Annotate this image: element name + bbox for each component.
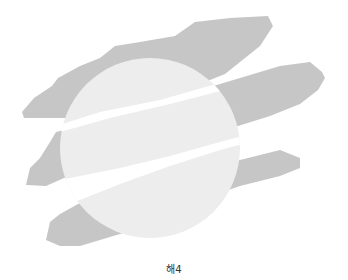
brush-sun-illustration bbox=[0, 0, 348, 255]
figure-caption: 해4 bbox=[0, 261, 348, 276]
